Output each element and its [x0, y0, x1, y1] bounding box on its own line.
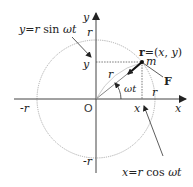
- y-eq-leader-arrow: [72, 37, 91, 57]
- radius-right-label: r: [152, 86, 158, 99]
- y-projection-label: y: [82, 58, 90, 71]
- neg-r-bottom-label: -r: [83, 155, 93, 168]
- force-arrow: [128, 62, 142, 74]
- angle-label: ωt: [124, 83, 137, 94]
- neg-r-left-label: -r: [20, 102, 30, 115]
- force-label: F: [164, 75, 172, 88]
- x-projection-label: x: [134, 102, 141, 115]
- origin-label: O: [84, 102, 93, 114]
- y-axis-label: y: [82, 11, 90, 24]
- y-equation-label: y=r sin ωt: [18, 23, 77, 36]
- radius-top-label: r: [87, 26, 93, 39]
- x-axis-label: x: [175, 102, 182, 115]
- radius-vector-label: r: [108, 68, 114, 81]
- circular-motion-diagram: y=r sin ωt y r y r=(x, y) m F r ωt r -r …: [0, 0, 193, 187]
- angle-arc: [115, 83, 121, 99]
- x-eq-leader-arrow: [144, 106, 163, 156]
- x-equation-label: x=r cos ωt: [122, 166, 182, 179]
- mass-label: m: [146, 55, 156, 68]
